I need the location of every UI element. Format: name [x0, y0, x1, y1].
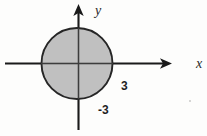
y-intercept-label: -3	[98, 104, 109, 116]
x-intercept-label: 3	[121, 80, 128, 92]
scan-artifact-speck	[189, 100, 191, 102]
x-axis-label: x	[196, 57, 202, 71]
y-axis-label: y	[95, 4, 101, 18]
math-figure: y x 3 -3	[0, 0, 207, 136]
